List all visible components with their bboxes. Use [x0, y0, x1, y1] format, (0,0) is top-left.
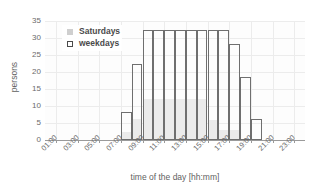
legend-item-weekdays: weekdays — [64, 38, 120, 49]
legend-label-saturdays: Saturdays — [79, 27, 120, 36]
x-tick-label: 21:00 — [257, 134, 276, 153]
x-tick-label: 23:00 — [278, 134, 297, 153]
x-tick-label: 19:00 — [235, 134, 254, 153]
legend-label-weekdays: weekdays — [79, 39, 119, 48]
filled-square-icon — [64, 29, 76, 35]
x-tick-label: 05:00 — [83, 134, 102, 153]
chart-legend: Saturdays weekdays — [62, 25, 122, 51]
x-axis-label: time of the day [hh:mm] — [45, 172, 305, 182]
x-tick-label: 11:00 — [148, 134, 167, 153]
x-axis-ticks: 01:0003:0005:0007:0009:0011:0013:0015:00… — [0, 0, 312, 190]
y-axis-label: persons — [9, 42, 19, 112]
x-tick-label: 07:00 — [105, 134, 124, 153]
x-tick-label: 13:00 — [170, 134, 189, 153]
chart-figure: 05101520253035 01:0003:0005:0007:0009:00… — [0, 0, 312, 190]
open-square-icon — [64, 41, 76, 47]
x-tick-label: 01:00 — [40, 134, 59, 153]
x-tick-label: 15:00 — [192, 134, 211, 153]
x-tick-label: 09:00 — [127, 134, 146, 153]
legend-item-saturdays: Saturdays — [64, 26, 120, 37]
x-tick-label: 03:00 — [62, 134, 81, 153]
x-tick-label: 17:00 — [213, 134, 232, 153]
